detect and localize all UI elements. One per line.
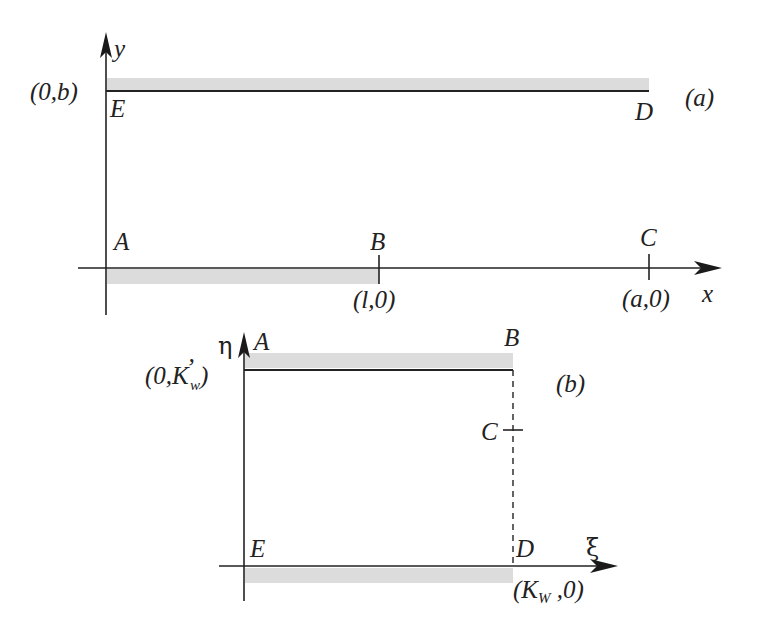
point-D: D (634, 98, 653, 125)
panel-b-tag: (b) (556, 370, 585, 398)
y-axis-label: y (111, 35, 126, 62)
point-C: C (640, 224, 657, 251)
bottom-boundary-shading (107, 269, 379, 284)
top-boundary-shading (107, 78, 649, 90)
coord-A: (0,K’w) (145, 354, 208, 393)
conformal-map-diagram: y x (0,b) E D (a) A B C (l,0) (a,0) η ξ … (0, 0, 763, 633)
point-E: E (109, 95, 125, 122)
coord-B: (l,0) (353, 286, 395, 314)
top-boundary-shading (245, 353, 513, 368)
coord-C: (a,0) (622, 285, 670, 313)
coord-E: (0,b) (30, 78, 78, 106)
point-E: E (249, 535, 265, 562)
x-axis-label: x (701, 280, 713, 307)
panel-a-tag: (a) (685, 84, 714, 112)
panel-b: η ξ A B (b) C E D (0,K’w) (KW ,0) (145, 324, 618, 606)
coord-D: (KW ,0) (513, 576, 584, 606)
xi-axis-label: ξ (586, 534, 599, 562)
point-B: B (370, 228, 385, 255)
bottom-boundary-shading (245, 568, 513, 583)
panel-a: y x (0,b) E D (a) A B C (l,0) (a,0) (30, 32, 722, 315)
eta-axis-label: η (218, 332, 232, 360)
point-D: D (515, 535, 534, 562)
point-C: C (481, 418, 498, 445)
point-A: A (252, 328, 270, 355)
point-B: B (504, 324, 519, 351)
point-A: A (112, 228, 130, 255)
